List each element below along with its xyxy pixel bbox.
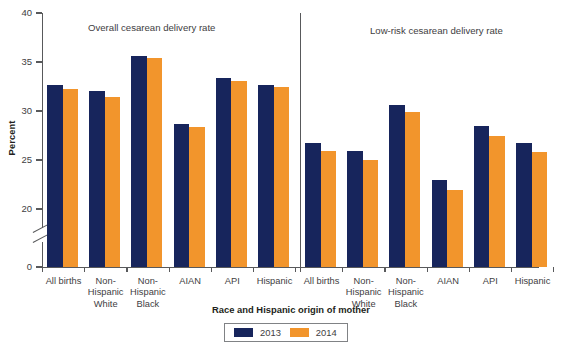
legend-swatch-2013-icon (234, 328, 253, 337)
x-tick-panel1-cat6 (253, 267, 254, 272)
panel-title-overall: Overall cesarean delivery rate (88, 22, 215, 33)
x-tick-panel2-cat1 (300, 267, 301, 272)
x-label-panel2-cat6: Hispanic (504, 276, 562, 287)
bar-2014-panel1-cat6 (274, 87, 290, 268)
bar-2014-panel1-cat4 (189, 127, 205, 267)
y-tick-25 (36, 159, 42, 160)
bar-2014-panel2-cat4 (447, 190, 463, 267)
y-tick-label-30: 30 (6, 105, 32, 116)
y-tick-label-0: 0 (6, 261, 32, 272)
y-tick-label-35: 35 (6, 56, 32, 67)
y-tick-label-40: 40 (6, 7, 32, 18)
x-tick-panel1-cat1 (42, 267, 43, 272)
bar-2014-panel1-cat1 (63, 89, 79, 267)
y-tick-30 (36, 110, 42, 111)
bar-2013-panel1-cat1 (47, 85, 63, 267)
bar-2013-panel1-cat6 (258, 85, 274, 267)
y-tick-35 (36, 61, 42, 62)
legend-label-2013: 2013 (260, 327, 281, 338)
y-tick-20 (36, 208, 42, 209)
bar-2013-panel2-cat1 (305, 143, 321, 267)
bar-2014-panel1-cat5 (231, 81, 247, 267)
legend-item-2013: 2013 (234, 327, 281, 338)
x-tick-panel2-cat6 (511, 267, 512, 272)
panel-divider-line (300, 13, 301, 267)
bar-2013-panel1-cat4 (174, 124, 190, 267)
x-tick-panel2-end (553, 267, 554, 272)
x-tick-panel2-cat4 (427, 267, 428, 272)
x-axis-line (42, 267, 539, 268)
legend: 2013 2014 (224, 323, 348, 342)
x-tick-panel2-cat2 (342, 267, 343, 272)
x-tick-panel1-cat3 (126, 267, 127, 272)
y-tick-label-20: 20 (6, 203, 32, 214)
bar-2014-panel2-cat6 (532, 152, 548, 267)
x-axis-title: Race and Hispanic origin of mother (0, 304, 582, 315)
bar-2013-panel1-cat2 (89, 91, 105, 267)
bar-2013-panel2-cat2 (347, 151, 363, 267)
legend-swatch-2014-icon (290, 328, 309, 337)
bar-2013-panel1-cat5 (216, 78, 232, 267)
bar-2013-panel2-cat6 (516, 143, 532, 267)
x-tick-panel1-end (295, 267, 296, 272)
bar-2013-panel2-cat4 (432, 180, 448, 267)
x-tick-panel2-cat5 (469, 267, 470, 272)
panel-title-low-risk: Low-risk cesarean delivery rate (370, 25, 503, 36)
legend-item-2014: 2014 (290, 327, 337, 338)
bar-2013-panel1-cat3 (131, 56, 147, 267)
x-tick-panel1-cat5 (211, 267, 212, 272)
cesarean-delivery-rate-chart: Percent 40353025200 Overall cesarean del… (0, 0, 582, 354)
bar-2014-panel2-cat1 (321, 151, 337, 267)
bar-2014-panel1-cat3 (147, 58, 163, 267)
bar-2014-panel2-cat5 (489, 136, 505, 268)
legend-label-2014: 2014 (316, 327, 337, 338)
x-tick-panel1-cat4 (169, 267, 170, 272)
y-tick-40 (36, 12, 42, 13)
x-tick-panel1-cat2 (84, 267, 85, 272)
x-tick-panel2-cat3 (384, 267, 385, 272)
bar-2014-panel1-cat2 (105, 97, 121, 267)
bar-2013-panel2-cat5 (474, 126, 490, 267)
bar-2013-panel2-cat3 (389, 105, 405, 267)
y-tick-label-25: 25 (6, 154, 32, 165)
bar-2014-panel2-cat2 (363, 160, 379, 267)
bar-2014-panel2-cat3 (405, 112, 421, 267)
